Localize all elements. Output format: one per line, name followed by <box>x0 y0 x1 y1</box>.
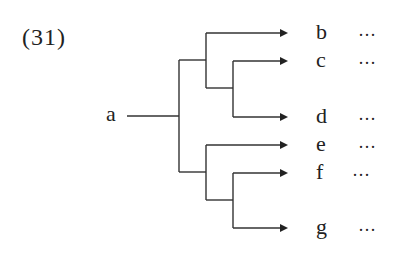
leaf-label-c: c <box>316 49 326 71</box>
arrow-head-c-icon <box>280 57 288 65</box>
arrow-head-d-icon <box>280 113 288 121</box>
leaf-ellipsis-f: ··· <box>352 164 370 186</box>
leaf-label-e: e <box>316 133 326 155</box>
leaf-label-f: f <box>316 161 323 183</box>
leaf-ellipsis-g: ··· <box>358 219 376 241</box>
leaf-ellipsis-d: ··· <box>358 108 376 130</box>
arrow-head-e-icon <box>280 141 288 149</box>
tree-diagram: (31) a b ··· c ··· d ··· e ··· f <box>0 0 411 263</box>
leaf-ellipsis-b: ··· <box>358 24 376 46</box>
arrow-head-b-icon <box>280 29 288 37</box>
leaf-label-d: d <box>316 105 327 127</box>
leaf-label-b: b <box>316 21 327 43</box>
leaf-ellipsis-c: ··· <box>358 52 376 74</box>
tree-connectors <box>0 0 411 263</box>
leaf-ellipsis-e: ··· <box>358 136 376 158</box>
arrow-head-g-icon <box>280 224 288 232</box>
leaf-label-g: g <box>316 216 327 238</box>
arrow-head-f-icon <box>280 169 288 177</box>
